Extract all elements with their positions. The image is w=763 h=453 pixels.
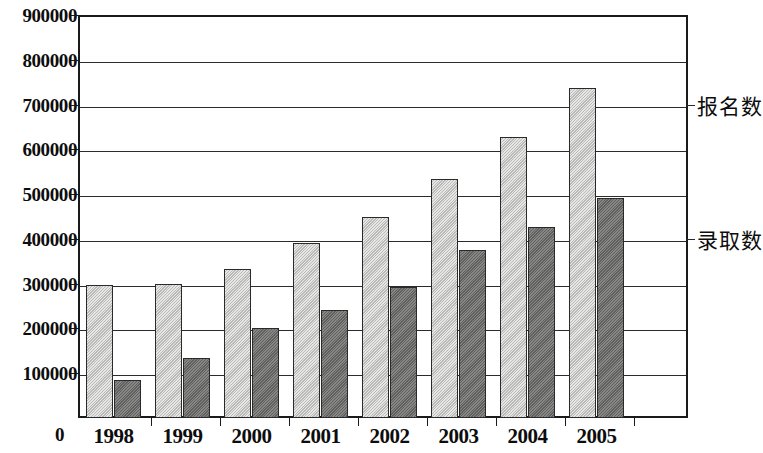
bar-chart: 1000002000003000004000005000006000007000… bbox=[0, 0, 763, 453]
x-axis-tick-label-2003: 2003 bbox=[429, 424, 489, 449]
x-axis-tick-label-2000: 2000 bbox=[222, 424, 282, 449]
x-axis-tick-mark bbox=[565, 418, 566, 426]
x-axis-tick-label-2001: 2001 bbox=[291, 424, 351, 449]
legend-label-series1: 报名数 bbox=[697, 90, 763, 120]
legend-label-series2: 录取数 bbox=[697, 224, 763, 254]
x-axis-tick-label-2005: 2005 bbox=[567, 424, 627, 449]
x-axis-tick-mark bbox=[496, 418, 497, 426]
y-axis-tick-label: 900000 bbox=[22, 6, 77, 25]
bar-2000-series2 bbox=[252, 328, 279, 418]
y-axis-tick-label: 600000 bbox=[22, 140, 77, 159]
x-axis-tick-label-2004: 2004 bbox=[498, 424, 558, 449]
y-axis-tick-mark bbox=[71, 284, 78, 285]
bar-1999-series2 bbox=[183, 358, 210, 418]
y-axis-tick-label: 300000 bbox=[22, 275, 77, 294]
bars-layer bbox=[78, 15, 688, 418]
y-axis-tick-mark bbox=[71, 105, 78, 106]
y-axis-tick-label: 100000 bbox=[22, 364, 77, 383]
x-axis-tick-mark bbox=[427, 418, 428, 426]
bar-2001-series2 bbox=[321, 310, 348, 418]
x-axis-tick-mark bbox=[358, 418, 359, 426]
x-axis-tick-mark bbox=[289, 418, 290, 426]
y-axis-tick-mark bbox=[71, 194, 78, 195]
x-axis-tick-label-1999: 1999 bbox=[153, 424, 213, 449]
bar-2003-series2 bbox=[459, 250, 486, 418]
y-axis-tick-mark bbox=[71, 239, 78, 240]
y-axis-tick-label: 700000 bbox=[22, 96, 77, 115]
y-axis-tick-mark bbox=[71, 328, 78, 329]
bar-2002-series1 bbox=[362, 217, 389, 419]
bar-2004-series1 bbox=[500, 137, 527, 418]
bar-2005-series1 bbox=[569, 88, 596, 418]
bar-2002-series2 bbox=[390, 287, 417, 418]
x-axis-tick-mark bbox=[220, 418, 221, 426]
x-axis-tick-mark bbox=[634, 418, 635, 426]
bar-2000-series1 bbox=[224, 269, 251, 418]
x-axis-tick-mark bbox=[151, 418, 152, 426]
bar-1998-series2 bbox=[114, 380, 141, 418]
bar-2004-series2 bbox=[528, 227, 555, 418]
y-axis-tick-label: 800000 bbox=[22, 51, 77, 70]
y-axis-tick-label: 200000 bbox=[22, 319, 77, 338]
legend-leader-line bbox=[686, 239, 695, 240]
bar-2001-series1 bbox=[293, 243, 320, 418]
y-axis-tick-label: 400000 bbox=[22, 230, 77, 249]
bar-1998-series1 bbox=[86, 285, 113, 418]
legend-leader-line bbox=[686, 105, 695, 106]
bar-2005-series2 bbox=[597, 198, 624, 418]
x-axis-tick-label-2002: 2002 bbox=[360, 424, 420, 449]
bar-1999-series1 bbox=[155, 284, 182, 418]
y-axis-zero-label: 0 bbox=[55, 424, 65, 446]
y-axis-tick-mark bbox=[71, 149, 78, 150]
bar-2003-series1 bbox=[431, 179, 458, 418]
y-axis-tick-mark bbox=[71, 373, 78, 374]
x-axis-tick-label-1998: 1998 bbox=[84, 424, 144, 449]
y-axis-tick-label: 500000 bbox=[22, 185, 77, 204]
y-axis-tick-mark bbox=[71, 15, 78, 16]
y-axis-tick-mark bbox=[71, 60, 78, 61]
